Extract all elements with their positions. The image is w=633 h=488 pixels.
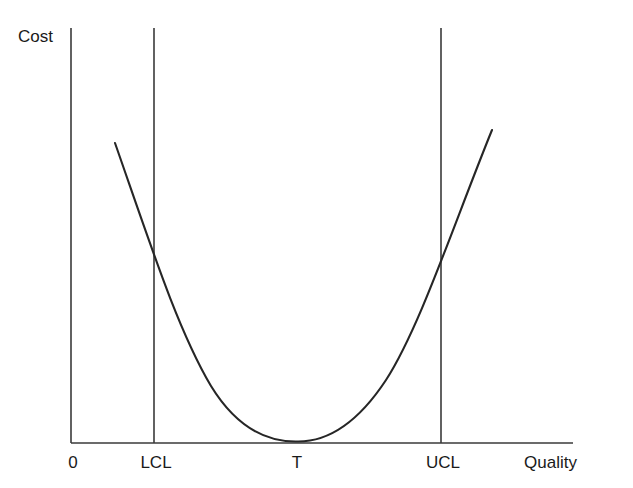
quality-loss-chart: Cost 0 LCL T UCL Quality xyxy=(0,0,633,488)
x-tick-label-target: T xyxy=(292,453,302,472)
x-tick-label-origin: 0 xyxy=(68,453,77,472)
chart-background xyxy=(0,0,633,488)
x-axis-title: Quality xyxy=(524,453,577,472)
x-tick-label-ucl: UCL xyxy=(426,453,460,472)
y-axis-title: Cost xyxy=(18,27,53,46)
x-tick-label-lcl: LCL xyxy=(140,453,171,472)
